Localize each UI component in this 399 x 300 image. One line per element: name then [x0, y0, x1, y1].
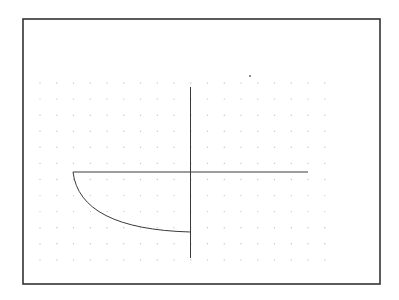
grid-dot	[106, 179, 107, 180]
grid-dot	[224, 147, 225, 148]
grid-dot	[157, 98, 158, 99]
grid-dot	[291, 195, 292, 196]
grid-dot	[224, 195, 225, 196]
grid-dot	[291, 82, 292, 83]
grid-dot	[140, 147, 141, 148]
grid-dot	[39, 163, 40, 164]
grid-dot	[123, 131, 124, 132]
grid-dot	[324, 243, 325, 244]
grid-dot	[207, 163, 208, 164]
grid-dot	[307, 147, 308, 148]
grid-dot	[173, 131, 174, 132]
grid-dot	[106, 82, 107, 83]
grid-dot	[240, 82, 241, 83]
grid-dot	[106, 243, 107, 244]
grid-dot	[224, 163, 225, 164]
grid-dot	[291, 211, 292, 212]
grid-dot	[90, 82, 91, 83]
grid-dot	[56, 179, 57, 180]
grid-dot	[274, 163, 275, 164]
grid-dot	[90, 163, 91, 164]
grid-dot	[207, 211, 208, 212]
grid-dot	[257, 195, 258, 196]
grid-dot	[207, 243, 208, 244]
grid-dot	[240, 163, 241, 164]
grid-dot	[240, 115, 241, 116]
grid-dot	[240, 98, 241, 99]
grid-dot	[140, 98, 141, 99]
grid-dot	[157, 115, 158, 116]
grid-dot	[123, 179, 124, 180]
grid-dot	[123, 227, 124, 228]
grid-dot	[157, 243, 158, 244]
grid-dot	[307, 227, 308, 228]
grid-dot	[90, 131, 91, 132]
grid-dot	[123, 211, 124, 212]
grid-dot	[307, 131, 308, 132]
grid-dot	[274, 147, 275, 148]
grid-dot	[106, 115, 107, 116]
grid-dot	[90, 243, 91, 244]
grid-dot	[39, 211, 40, 212]
grid-dot	[123, 243, 124, 244]
grid-dot	[207, 259, 208, 260]
grid-dot	[140, 163, 141, 164]
grid-dot	[140, 82, 141, 83]
grid-dot	[324, 211, 325, 212]
grid-dot	[257, 147, 258, 148]
grid-dot	[257, 227, 258, 228]
grid-dot	[224, 115, 225, 116]
grid-dot	[140, 243, 141, 244]
grid-dot	[173, 82, 174, 83]
grid-dot	[257, 163, 258, 164]
grid-dot	[39, 82, 40, 83]
grid-dot	[39, 98, 40, 99]
grid-dot	[106, 227, 107, 228]
grid-dot	[224, 227, 225, 228]
grid-dot	[291, 147, 292, 148]
grid-dot	[73, 82, 74, 83]
grid-dot	[173, 115, 174, 116]
grid-dot	[140, 259, 141, 260]
grid-dot	[123, 115, 124, 116]
grid-dot	[90, 179, 91, 180]
grid-dot	[257, 259, 258, 260]
grid-dot	[207, 98, 208, 99]
grid-dot	[173, 211, 174, 212]
grid-dot	[173, 195, 174, 196]
stray-dot-mark	[249, 75, 251, 77]
grid-dot	[106, 131, 107, 132]
grid-dot	[90, 211, 91, 212]
grid-dot	[291, 227, 292, 228]
grid-dot	[324, 195, 325, 196]
grid-dot	[123, 98, 124, 99]
grid-dot	[274, 243, 275, 244]
grid-dot	[274, 82, 275, 83]
grid-dot	[140, 179, 141, 180]
grid-dot	[240, 243, 241, 244]
grid-dot	[73, 115, 74, 116]
grid-dot	[140, 195, 141, 196]
grid-dot	[56, 259, 57, 260]
grid-dot	[106, 98, 107, 99]
grid-dot	[240, 131, 241, 132]
grid-dot	[324, 98, 325, 99]
grid-dot	[291, 259, 292, 260]
grid-dot	[73, 98, 74, 99]
grid-dot	[307, 259, 308, 260]
grid-dot	[291, 115, 292, 116]
grid-dot	[324, 259, 325, 260]
grid-dot	[307, 243, 308, 244]
grid-dot	[90, 259, 91, 260]
grid-dot	[56, 82, 57, 83]
grid-dot	[291, 98, 292, 99]
grid-dot	[224, 259, 225, 260]
grid-dot	[307, 115, 308, 116]
grid-dot	[56, 163, 57, 164]
grid-dot	[123, 82, 124, 83]
grid-dot	[307, 163, 308, 164]
grid-dot	[90, 227, 91, 228]
grid-dot	[324, 227, 325, 228]
grid-dot	[257, 98, 258, 99]
grid-dot	[224, 243, 225, 244]
